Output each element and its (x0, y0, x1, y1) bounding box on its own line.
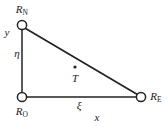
node-marker-east (136, 92, 145, 101)
coordinate-label-xi: ξ (77, 100, 82, 111)
node-marker-origin (17, 92, 26, 101)
node-label-north: RN (16, 4, 28, 16)
axis-label-x: x (95, 112, 100, 123)
node-label-east: RE (150, 91, 161, 103)
node-label-east-subscript: E (157, 95, 162, 104)
edge-hypotenuse (25, 28, 137, 94)
node-label-origin-subscript: O (23, 110, 29, 119)
coordinate-label-eta: η (14, 48, 19, 59)
node-label-origin-base: R (16, 105, 23, 117)
axis-label-y: y (5, 27, 10, 38)
node-label-north-subscript: N (23, 8, 29, 17)
point-marker-t (73, 65, 76, 68)
node-label-east-base: R (150, 90, 157, 102)
point-label-t: T (72, 73, 78, 84)
node-label-north-base: R (16, 3, 23, 15)
node-label-origin: RO (16, 106, 28, 118)
node-marker-north (17, 20, 26, 29)
geometry-diagram: RN RO RE y x η ξ T (0, 0, 168, 127)
